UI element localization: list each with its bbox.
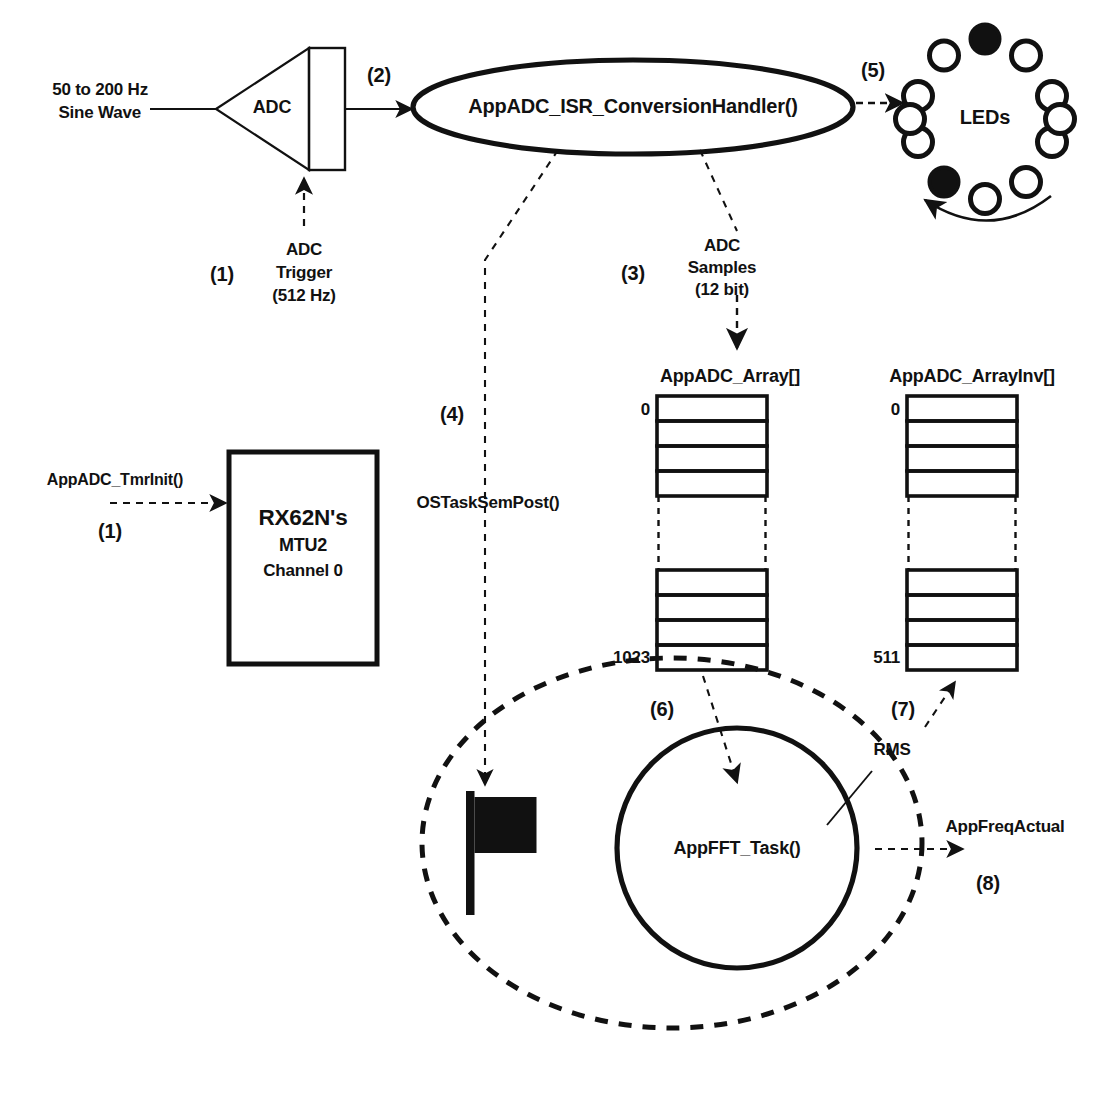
- led-10: [1046, 105, 1075, 134]
- led-7: [904, 128, 933, 157]
- sine-source-line1: 50 to 200 Hz: [52, 80, 148, 100]
- app-adc-array-cells: [657, 396, 767, 670]
- step-3-label: (3): [621, 262, 645, 286]
- led-9: [930, 41, 959, 70]
- array-main-last-index: 1023: [613, 648, 650, 668]
- step-4-label: (4): [440, 403, 464, 427]
- step-1-init-label: (1): [98, 520, 122, 544]
- adc-label: ADC: [253, 97, 291, 118]
- step-7-label: (7): [891, 698, 915, 722]
- led-rotation-arrow: [925, 196, 1051, 221]
- led-0-lit: [971, 25, 1000, 54]
- rms-label: RMS: [873, 740, 910, 760]
- diagram-canvas: 50 to 200 Hz Sine Wave ADC (2) AppADC_IS…: [0, 0, 1098, 1095]
- led-2: [1038, 82, 1067, 111]
- led-1: [1012, 41, 1041, 70]
- led-8: [904, 82, 933, 111]
- sine-source-line2: Sine Wave: [58, 103, 141, 123]
- timer-block-line2: MTU2: [279, 535, 327, 556]
- led-5: [971, 185, 1000, 214]
- adc-samples-line3: (12 bit): [695, 280, 749, 300]
- led-3: [1038, 128, 1067, 157]
- array-inv-last-index: 511: [873, 648, 900, 668]
- rms-leader-line: [827, 771, 872, 825]
- isr-label: AppADC_ISR_ConversionHandler(): [468, 95, 798, 119]
- timer-block-line3: Channel 0: [263, 561, 342, 581]
- led-6-lit: [930, 168, 959, 197]
- adc-sampler-rect: [309, 48, 345, 170]
- adc-samples-line1: ADC: [704, 236, 740, 256]
- leds-label: LEDs: [960, 106, 1010, 130]
- step-6-label: (6): [650, 698, 674, 722]
- diagram-vector-layer: [0, 0, 1098, 1095]
- fft-output-label: AppFreqActual: [945, 817, 1064, 837]
- array-main-name: AppADC_Array[]: [660, 366, 800, 387]
- timer-block-line1: RX62N's: [259, 505, 348, 532]
- array-inv-first-index: 0: [891, 400, 900, 420]
- step-8-label: (8): [976, 872, 1000, 896]
- mtu2-block: [229, 452, 377, 664]
- isr-to-semaphore-line: [485, 150, 558, 785]
- led-11: [896, 105, 925, 134]
- fft-task-label: AppFFT_Task(): [673, 838, 800, 859]
- led-4: [1012, 168, 1041, 197]
- array-to-fft-arrow: [703, 676, 737, 782]
- adc-trigger-line2: Trigger: [276, 263, 332, 283]
- array-inv-name: AppADC_ArrayInv[]: [889, 366, 1055, 387]
- adc-samples-line2: Samples: [688, 258, 757, 278]
- isr-to-samples-line: [700, 150, 737, 231]
- step-5-label: (5): [861, 59, 885, 83]
- step-1-trigger-label: (1): [210, 263, 234, 287]
- sem-post-label: OSTaskSemPost(): [416, 493, 559, 513]
- step-2-label: (2): [367, 64, 391, 88]
- app-adc-array-inv-cells: [907, 396, 1017, 670]
- adc-trigger-line1: ADC: [286, 240, 322, 260]
- tmr-init-label: AppADC_TmrInit(): [47, 471, 183, 490]
- array-main-first-index: 0: [641, 400, 650, 420]
- fft-to-array-inv-arrow: [925, 682, 955, 727]
- semaphore-flag-icon: [466, 791, 537, 915]
- adc-trigger-line3: (512 Hz): [272, 286, 336, 306]
